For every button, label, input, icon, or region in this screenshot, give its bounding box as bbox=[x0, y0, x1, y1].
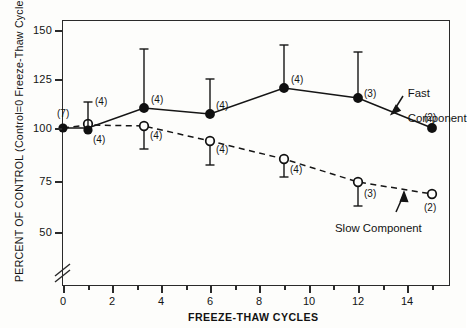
x-minor-tick-mark bbox=[235, 286, 237, 290]
x-minor-tick-mark bbox=[383, 286, 385, 290]
data-point-open bbox=[206, 137, 215, 146]
y-axis-title: PERCENT OF CONTROL (Control=0 Freeze-Tha… bbox=[13, 0, 25, 282]
fast-component-label-line2: Component bbox=[408, 112, 467, 124]
x-tick-mark bbox=[407, 286, 409, 293]
x-tick-label: 0 bbox=[50, 295, 76, 307]
x-tick-mark bbox=[112, 286, 114, 293]
y-tick-mark bbox=[55, 30, 62, 32]
x-tick-label: 10 bbox=[296, 295, 322, 307]
x-minor-tick-mark bbox=[88, 286, 90, 290]
fast-component-label: Fast Component bbox=[395, 74, 467, 137]
data-point-filled bbox=[83, 125, 92, 134]
n-label-fast: (4) bbox=[95, 96, 107, 107]
x-tick-mark bbox=[63, 286, 65, 293]
x-tick-label: 12 bbox=[345, 295, 371, 307]
n-label-slow: (4) bbox=[93, 134, 105, 145]
y-axis-break-icon bbox=[55, 264, 70, 282]
n-label-slow: (4) bbox=[216, 144, 228, 155]
slow-component-line bbox=[63, 125, 432, 194]
n-label-slow: (4) bbox=[290, 164, 302, 175]
slow-error-bars bbox=[140, 126, 363, 206]
x-tick-label: 14 bbox=[394, 295, 420, 307]
series-fast-component bbox=[58, 45, 437, 135]
x-tick-mark bbox=[210, 286, 212, 293]
n-label-slow: (2) bbox=[424, 202, 436, 213]
fast-component-label-line1: Fast bbox=[408, 87, 430, 99]
x-tick-mark bbox=[309, 286, 311, 293]
n-label-fast: (4) bbox=[291, 74, 303, 85]
x-minor-tick-mark bbox=[333, 286, 335, 290]
data-point-filled bbox=[205, 109, 215, 119]
y-tick-mark bbox=[55, 128, 62, 130]
fast-component-line bbox=[63, 88, 432, 128]
x-minor-tick-mark bbox=[186, 286, 188, 290]
data-point-filled bbox=[279, 83, 289, 93]
x-minor-tick-mark bbox=[284, 286, 286, 290]
y-tick-mark bbox=[55, 181, 62, 183]
data-point-filled bbox=[353, 93, 363, 103]
x-tick-mark bbox=[259, 286, 261, 293]
n-label-fast: (4) bbox=[151, 94, 163, 105]
x-tick-label: 6 bbox=[197, 295, 223, 307]
x-tick-label: 4 bbox=[148, 295, 174, 307]
y-tick-mark bbox=[55, 232, 62, 234]
x-tick-label: 2 bbox=[99, 295, 125, 307]
fast-component-markers bbox=[58, 83, 437, 135]
data-point-filled bbox=[139, 103, 149, 113]
x-minor-tick-mark bbox=[432, 286, 434, 290]
series-slow-component bbox=[63, 120, 436, 212]
data-point-open bbox=[140, 122, 149, 131]
slow-component-arrow-icon bbox=[396, 192, 408, 212]
x-axis-title: FREEZE-THAW CYCLES bbox=[188, 311, 319, 323]
n-label-slow: (3) bbox=[364, 188, 376, 199]
slow-component-label: Slow Component bbox=[335, 222, 422, 235]
n-label-fast: (4) bbox=[216, 100, 228, 111]
x-tick-label: 8 bbox=[246, 295, 272, 307]
y-tick-mark bbox=[55, 79, 62, 81]
fast-error-bars bbox=[84, 45, 363, 128]
data-point-open bbox=[354, 178, 363, 187]
n-label-fast: (3) bbox=[364, 88, 376, 99]
x-tick-mark bbox=[161, 286, 163, 293]
data-point-open bbox=[428, 190, 437, 199]
n-label-fast: (7) bbox=[57, 108, 69, 119]
data-point-open bbox=[280, 155, 289, 164]
x-tick-mark bbox=[358, 286, 360, 293]
x-minor-tick-mark bbox=[137, 286, 139, 290]
n-label-slow: (4) bbox=[150, 130, 162, 141]
